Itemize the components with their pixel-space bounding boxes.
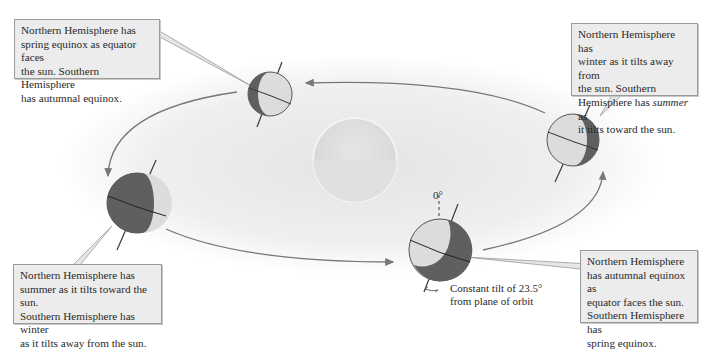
callout-spring-equinox: Northern Hemisphere has spring equinox a… <box>14 19 160 79</box>
sun <box>313 118 397 202</box>
callout-text: Hemisphere has summer as <box>578 96 691 123</box>
callout-text: the sun. Southern Hemisphere <box>21 65 153 92</box>
callout-text-part: as <box>578 110 587 122</box>
callout-text: Southern Hemisphere has winter <box>20 310 155 337</box>
zero-degree-label: 0° <box>433 189 443 202</box>
pointer-bottom-left <box>73 226 112 265</box>
callout-text: winter as it tilts away from <box>578 55 691 82</box>
callout-text: summer as it tilts toward the sun. <box>20 283 155 310</box>
tilt-label-line2: from plane of orbit <box>450 295 542 308</box>
callout-emphasis: summer <box>653 96 688 108</box>
callout-text: spring equinox as equator faces <box>21 38 153 65</box>
tilt-label-line1: Constant tilt of 23.5° <box>450 282 542 295</box>
callout-text: it tilts toward the sun. <box>578 123 691 137</box>
callout-text: Northern Hemisphere <box>587 255 691 269</box>
callout-text: Northern Hemisphere has <box>578 28 691 55</box>
callout-text: Northern Hemisphere has <box>21 24 153 38</box>
callout-text: as it tilts away from the sun. <box>20 337 155 351</box>
callout-autumnal-equinox: Northern Hemisphere has autumnal equinox… <box>580 250 698 323</box>
callout-text-part: Hemisphere has <box>578 96 653 108</box>
callout-text: has autumnal equinox as <box>587 269 691 296</box>
callout-text: spring equinox. <box>587 337 691 351</box>
callout-text: has autumnal equinox. <box>21 92 153 106</box>
callout-text: Northern Hemisphere has <box>20 269 155 283</box>
callout-text: equator faces the sun. <box>587 296 691 310</box>
callout-text: Southern Hemisphere has <box>587 309 691 336</box>
tilt-label: Constant tilt of 23.5° from plane of orb… <box>450 282 542 307</box>
callout-text: the sun. Southern <box>578 82 691 96</box>
callout-northern-winter: Northern Hemisphere has winter as it til… <box>571 23 698 96</box>
callout-northern-summer: Northern Hemisphere has summer as it til… <box>13 264 162 324</box>
